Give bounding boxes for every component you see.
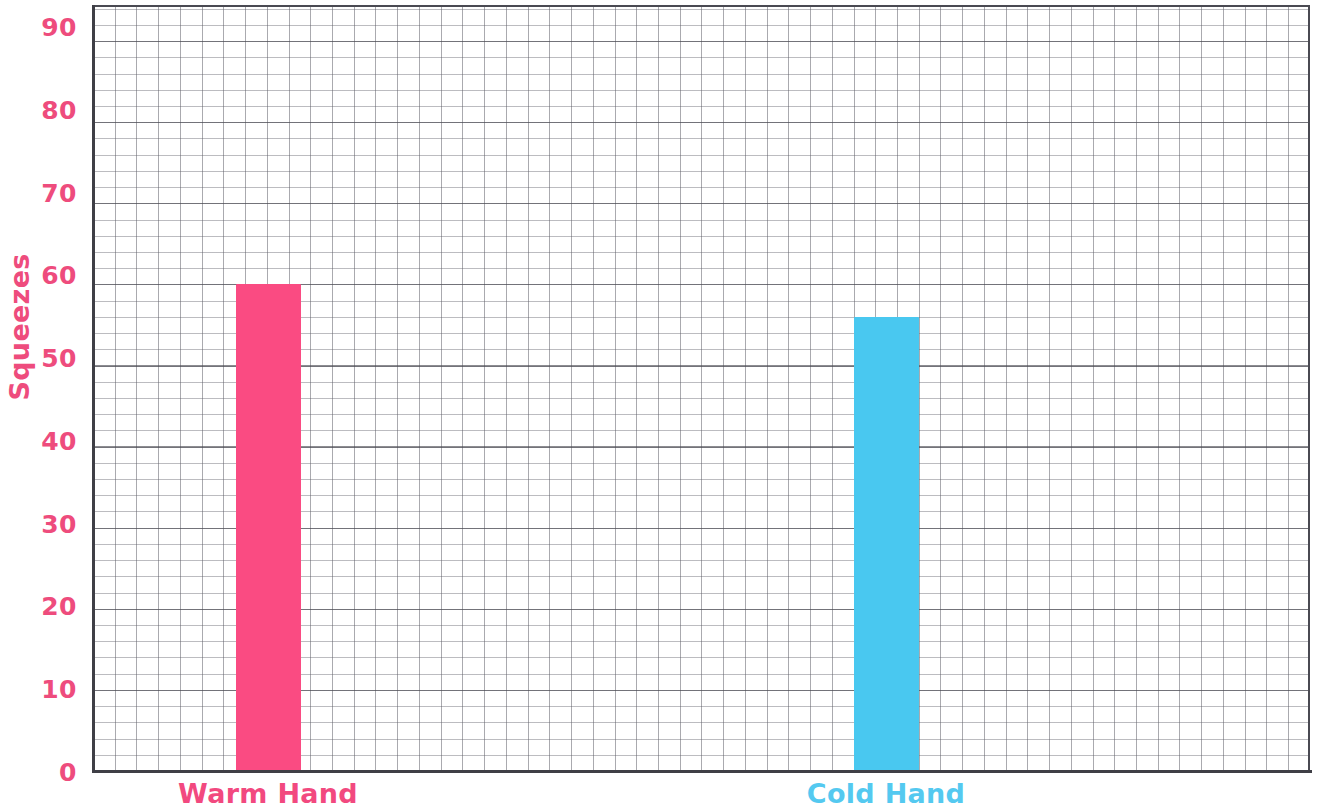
- y-tick-label: 20: [41, 592, 77, 621]
- y-tick-label: 90: [41, 13, 77, 42]
- y-axis-tick-labels: 0102030405060708090: [0, 0, 93, 810]
- y-tick-label: 50: [41, 344, 77, 373]
- bar-chart: Squeezes 0102030405060708090 Warm HandCo…: [0, 0, 1317, 810]
- y-tick-label: 10: [41, 675, 77, 704]
- bar-warm-hand: [236, 284, 301, 772]
- y-tick-label: 80: [41, 95, 77, 124]
- bar-cold-hand: [854, 317, 919, 772]
- x-axis-line: [93, 770, 1312, 773]
- y-tick-label: 40: [41, 426, 77, 455]
- y-tick-label: 70: [41, 178, 77, 207]
- y-tick-label: 30: [41, 509, 77, 538]
- x-axis-tick-labels: Warm HandCold Hand: [0, 778, 1317, 810]
- x-tick-label: Cold Hand: [807, 778, 965, 809]
- x-tick-label: Warm Hand: [178, 778, 358, 809]
- y-tick-label: 60: [41, 261, 77, 290]
- y-axis-line: [92, 5, 95, 773]
- bars-layer: [93, 5, 1310, 772]
